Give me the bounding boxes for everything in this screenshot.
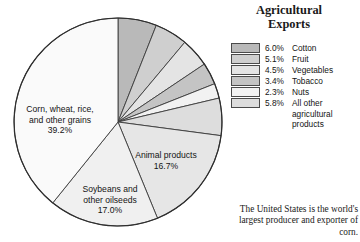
legend-label: Tobacco	[292, 76, 323, 86]
legend-row: 2.3%Nuts	[231, 87, 360, 98]
legend-label: All other	[292, 98, 322, 108]
caption-line1: The United States is the	[240, 204, 329, 214]
legend-percent: 3.4%	[265, 76, 292, 86]
legend-swatch	[231, 76, 260, 86]
legend-swatch	[231, 87, 260, 97]
legend-row: 5.1%Fruit	[231, 54, 360, 65]
legend-row: 6.0%Cotton	[231, 43, 360, 54]
legend-label: Fruit	[292, 54, 309, 64]
legend-title-line1: Agricultural	[256, 3, 322, 17]
legend-row: 5.8%All other	[231, 98, 360, 109]
legend-swatch	[231, 98, 260, 108]
legend-title-line2: Exports	[218, 18, 360, 32]
legend: 6.0%Cotton5.1%Fruit4.5%Vegetables3.4%Tob…	[231, 43, 360, 129]
legend-label: Vegetables	[292, 65, 333, 75]
legend-percent: 4.5%	[265, 65, 292, 75]
legend-percent: 6.0%	[265, 43, 292, 53]
legend-label: Nuts	[292, 87, 309, 97]
legend-percent: 2.3%	[265, 87, 292, 97]
legend-swatch	[231, 65, 260, 75]
legend-swatch	[231, 54, 260, 64]
legend-swatch	[231, 43, 260, 53]
legend-label: Cotton	[292, 43, 316, 53]
legend-percent: 5.8%	[265, 98, 292, 108]
caption-line3: and exporter of corn.	[301, 215, 358, 236]
legend-label-continuation: products	[292, 119, 360, 129]
legend-row: 4.5%Vegetables	[231, 65, 360, 76]
chart-caption: The United States is the world's largest…	[233, 204, 358, 238]
legend-percent: 5.1%	[265, 54, 292, 64]
legend-label-continuation: agricultural	[292, 109, 360, 119]
legend-title: Agricultural Exports	[218, 4, 360, 31]
legend-row: 3.4%Tobacco	[231, 76, 360, 87]
